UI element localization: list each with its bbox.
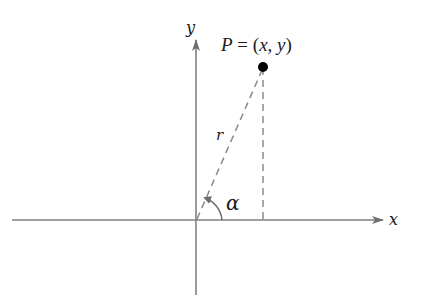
angle-arc <box>205 198 222 220</box>
x-axis-label: x <box>389 210 398 229</box>
point-label-comma: , <box>268 34 278 55</box>
point-label-y: y <box>275 34 286 55</box>
point-label: P = (x, y) <box>220 34 292 56</box>
point-label-close: ) <box>286 34 292 56</box>
coordinate-diagram: x y r α P = (x, y) <box>0 0 425 299</box>
angle-label: α <box>226 191 240 215</box>
point-label-eq: = ( <box>233 34 260 56</box>
y-axis-label: y <box>185 18 196 37</box>
radius-label: r <box>216 126 224 144</box>
point-label-p: P <box>220 34 233 55</box>
point-p <box>258 62 268 72</box>
